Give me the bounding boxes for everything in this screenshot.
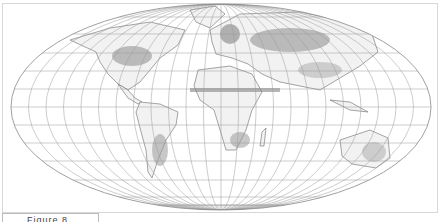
- caption-box: Figure 8: [2, 213, 99, 222]
- graticule-meridians: [29, 0, 414, 222]
- world-map: [0, 0, 441, 222]
- land-masses: [40, 6, 400, 214]
- figure-caption: Figure 8: [27, 215, 68, 222]
